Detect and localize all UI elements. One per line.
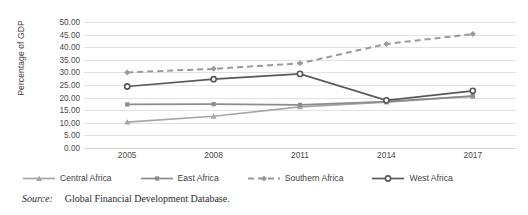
legend-label-central-africa: Central Africa — [60, 173, 112, 183]
circle-marker — [386, 175, 391, 180]
series-line — [127, 74, 473, 100]
square-marker — [125, 102, 129, 106]
x-tick-label: 2008 — [184, 150, 244, 160]
gridline — [84, 148, 516, 149]
y-tick-label: 5.00 — [38, 131, 80, 140]
legend-key-east-africa — [140, 173, 174, 184]
chart-legend: Central Africa East Africa Southern Afri… — [0, 170, 528, 186]
y-tick-label: 20.00 — [38, 93, 80, 102]
diamond-marker — [383, 41, 389, 47]
legend-item-east-africa[interactable]: East Africa — [140, 173, 219, 184]
y-tick-label: 10.00 — [38, 118, 80, 127]
legend-label-east-africa: East Africa — [178, 173, 219, 183]
circle-marker — [125, 84, 130, 89]
diamond-marker — [297, 60, 303, 66]
legend-item-west-africa[interactable]: West Africa — [371, 173, 452, 184]
x-tick-label: 2017 — [443, 150, 503, 160]
circle-marker — [211, 77, 216, 82]
source-label: Source: — [22, 193, 53, 204]
plot-area: Percentage of GDP 50.0045.0040.0035.0030… — [0, 0, 528, 165]
series-west-africa — [125, 71, 476, 103]
square-marker — [154, 176, 158, 180]
y-tick-label: 45.00 — [38, 30, 80, 39]
series-southern-africa — [124, 31, 476, 75]
source-note: Source:Global Financial Development Data… — [22, 193, 230, 204]
y-axis-tick-labels: 50.0045.0040.0035.0030.0025.0020.0015.00… — [38, 0, 80, 165]
diamond-marker — [124, 69, 130, 75]
square-marker — [212, 102, 216, 106]
series-layer — [84, 22, 516, 148]
y-tick-label: 50.00 — [38, 18, 80, 27]
series-central-africa — [124, 93, 476, 124]
diamond-marker — [211, 66, 217, 72]
circle-marker — [297, 71, 302, 76]
y-tick-label: 0.00 — [38, 144, 80, 153]
legend-key-southern-africa — [247, 173, 281, 184]
series-line — [127, 34, 473, 72]
chart-figure: Percentage of GDP 50.0045.0040.0035.0030… — [0, 0, 528, 215]
circle-marker — [470, 88, 475, 93]
x-tick-label: 2011 — [270, 150, 330, 160]
y-tick-label: 30.00 — [38, 68, 80, 77]
diamond-marker — [470, 31, 476, 37]
y-tick-label: 25.00 — [38, 81, 80, 90]
x-tick-label: 2005 — [97, 150, 157, 160]
y-tick-label: 35.00 — [38, 55, 80, 64]
circle-marker — [384, 98, 389, 103]
y-axis-title: Percentage of GDP — [16, 8, 26, 108]
y-tick-label: 40.00 — [38, 43, 80, 52]
legend-item-southern-africa[interactable]: Southern Africa — [247, 173, 344, 184]
diamond-marker — [261, 175, 267, 181]
source-text: Global Financial Development Database. — [65, 193, 230, 204]
legend-key-west-africa — [371, 173, 405, 184]
legend-item-central-africa[interactable]: Central Africa — [22, 173, 112, 184]
y-tick-label: 15.00 — [38, 106, 80, 115]
legend-label-west-africa: West Africa — [409, 173, 452, 183]
legend-key-central-africa — [22, 173, 56, 184]
legend-label-southern-africa: Southern Africa — [285, 173, 344, 183]
square-marker — [298, 103, 302, 107]
x-tick-label: 2014 — [356, 150, 416, 160]
square-marker — [471, 94, 475, 98]
